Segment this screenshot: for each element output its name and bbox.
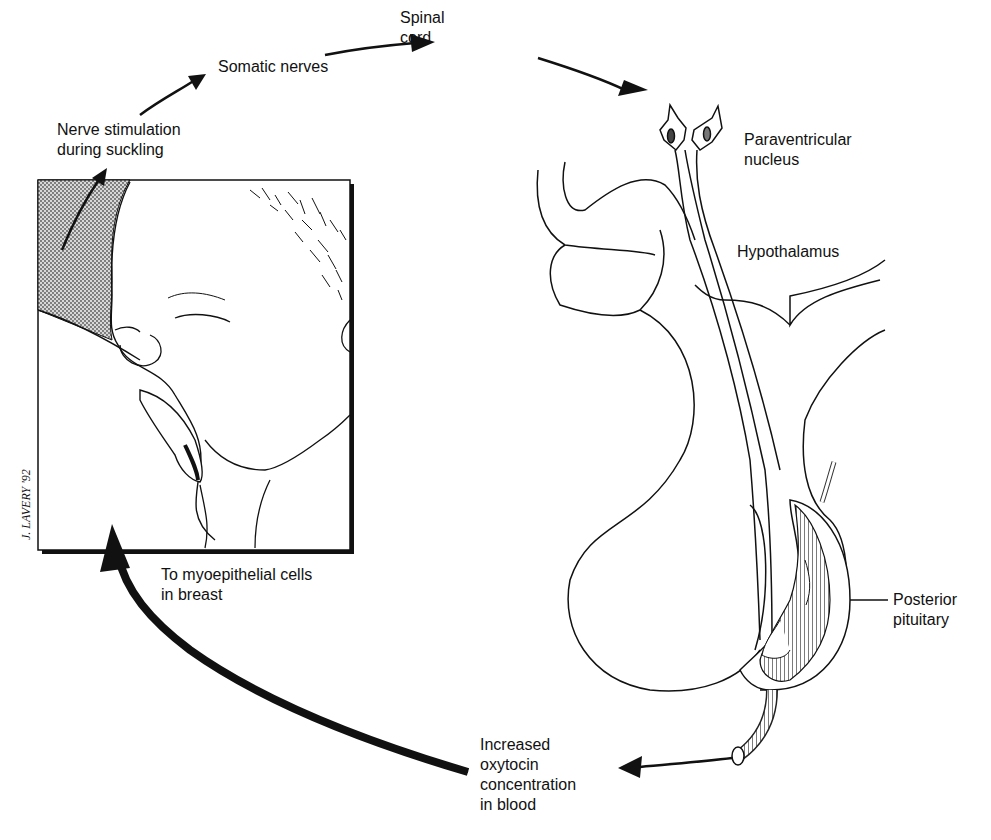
label-somatic-nerves: Somatic nerves bbox=[218, 57, 328, 77]
label-line: cord bbox=[400, 28, 444, 48]
label-spinal-cord: Spinal cord bbox=[400, 8, 444, 48]
efferent-arrows bbox=[100, 524, 732, 778]
baby-illustration: J. LAVERY '92 bbox=[19, 180, 354, 554]
label-line: in breast bbox=[161, 585, 312, 605]
artist-signature: J. LAVERY '92 bbox=[19, 469, 33, 540]
label-line: Spinal bbox=[400, 8, 444, 28]
label-line: pituitary bbox=[893, 610, 957, 630]
label-line: Hypothalamus bbox=[737, 242, 839, 262]
label-line: in blood bbox=[480, 795, 576, 815]
label-nerve-stimulation: Nerve stimulation during suckling bbox=[57, 120, 181, 160]
label-hypothalamus: Hypothalamus bbox=[737, 242, 839, 262]
label-line: Somatic nerves bbox=[218, 57, 328, 77]
label-increased-oxytocin: Increased oxytocin concentration in bloo… bbox=[480, 735, 576, 815]
hypothalamus-pituitary bbox=[537, 105, 888, 765]
label-line: oxytocin bbox=[480, 755, 576, 775]
label-line: nucleus bbox=[744, 150, 852, 170]
label-paraventricular-nucleus: Paraventricular nucleus bbox=[744, 130, 852, 170]
label-posterior-pituitary: Posterior pituitary bbox=[893, 590, 957, 630]
label-line: Posterior bbox=[893, 590, 957, 610]
label-line: Paraventricular bbox=[744, 130, 852, 150]
label-line: Increased bbox=[480, 735, 576, 755]
label-line: To myoepithelial cells bbox=[161, 565, 312, 585]
label-line: Nerve stimulation bbox=[57, 120, 181, 140]
label-line: during suckling bbox=[57, 140, 181, 160]
label-line: concentration bbox=[480, 775, 576, 795]
label-to-myoepithelial-cells: To myoepithelial cells in breast bbox=[161, 565, 312, 605]
neuron-1 bbox=[660, 105, 686, 150]
